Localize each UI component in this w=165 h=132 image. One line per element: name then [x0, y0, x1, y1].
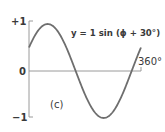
sine-wave-diagram: +1 0 −1 360° y = 1 sin (ϕ + 30°) (c)	[0, 0, 165, 132]
y-tick-label-minus-one: −1	[12, 112, 27, 123]
x-tick-label-360: 360°	[138, 56, 162, 67]
x-axis	[29, 67, 141, 71]
equation-label: y = 1 sin (ϕ + 30°)	[71, 28, 160, 38]
y-tick-label-zero: 0	[19, 66, 26, 77]
y-axis	[29, 21, 33, 117]
panel-label: (c)	[50, 99, 63, 110]
y-tick-label-plus-one: +1	[11, 16, 26, 27]
